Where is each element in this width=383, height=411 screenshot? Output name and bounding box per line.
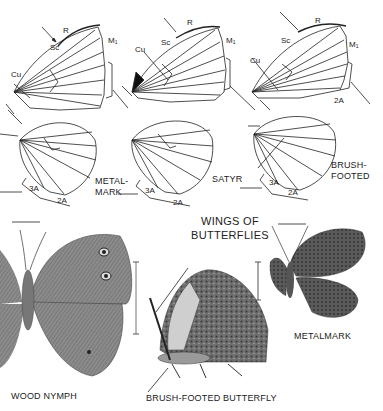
caption-brush-footed-butterfly: BRUSH-FOOTED BUTTERFLY: [146, 393, 277, 404]
hindwing-metalmark-diagram: [0, 110, 96, 206]
vein-label-r: R: [187, 18, 193, 27]
wing-label-metalmark: METAL-MARK: [95, 176, 129, 198]
forewing-satyr-diagram: [122, 18, 255, 110]
vein-label-r: R: [315, 16, 321, 25]
wing-label-brush-footed: BRUSH-FOOTED: [331, 160, 370, 182]
vein-label-3a: 3A: [269, 178, 279, 187]
vein-label-m1: M1: [108, 36, 117, 47]
caption-metalmark: METALMARK: [294, 331, 351, 342]
wing-label-satyr: SATYR: [212, 174, 242, 185]
caption-wood-nymph: WOOD NYMPH: [11, 391, 77, 402]
vein-label-2a: 2A: [288, 188, 298, 197]
vein-label-sc: Sc: [50, 43, 59, 52]
vein-label-m1: M1: [349, 40, 358, 51]
vein-label-2a: 2A: [334, 96, 344, 105]
hindwing-satyr-diagram: [118, 121, 213, 206]
vein-label-cu: Cu: [250, 56, 260, 65]
vein-label-2a: 2A: [173, 198, 183, 207]
vein-label-r: R: [63, 26, 69, 35]
wood-nymph-illustration: [0, 222, 139, 376]
vein-label-cu: Cu: [11, 70, 21, 79]
vein-label-3a: 3A: [29, 184, 39, 193]
forewing-brush-footed-diagram: [252, 12, 370, 110]
vein-label-2a: 2A: [57, 196, 67, 205]
vein-label-cu: Cu: [135, 45, 145, 54]
vein-label-sc: Sc: [161, 38, 170, 47]
page-title: WINGS OFBUTTERFLIES: [180, 214, 280, 242]
vein-label-sc: Sc: [281, 36, 290, 45]
brush-footed-butterfly-illustration: [148, 268, 268, 392]
illustration-canvas: [0, 0, 383, 411]
vein-label-m1: M1: [226, 36, 235, 47]
vein-label-3a: 3A: [145, 186, 155, 195]
